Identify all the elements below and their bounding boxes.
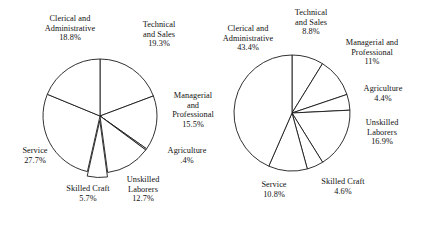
right-label-technical-line1: Technical <box>282 8 340 18</box>
left-label-managerial-line1: Managerial <box>159 91 227 101</box>
left-label-service-pct: 27.7% <box>11 156 59 166</box>
left-label-technical-line2: and Sales <box>126 30 192 40</box>
left-label-skilled-line1: Skilled Craft <box>60 184 116 194</box>
left-label-skilled-craft: Skilled Craft 5.7% <box>60 184 116 203</box>
right-label-clerical-pct: 43.4% <box>208 43 288 53</box>
left-pie-group <box>43 59 157 177</box>
left-label-managerial-pct: 15.5% <box>159 120 227 130</box>
right-label-managerial-line1: Managerial and <box>330 38 414 48</box>
left-label-clerical-and-administrative: Clerical and Administrative 18.8% <box>22 14 118 43</box>
right-label-agriculture-pct: 4.4% <box>352 94 414 104</box>
left-label-managerial-line2: and <box>159 101 227 111</box>
right-pie-group <box>234 55 350 171</box>
left-label-agriculture-pct: .4% <box>157 156 217 166</box>
right-label-service-line1: Service <box>250 180 298 190</box>
left-label-agriculture: Agriculture .4% <box>157 146 217 165</box>
right-label-skilled-line1: Skilled Craft <box>313 177 373 187</box>
right-label-clerical-line2: Administrative <box>208 34 288 44</box>
left-label-service-line1: Service <box>11 146 59 156</box>
right-label-clerical-line1: Clerical and <box>208 24 288 34</box>
left-label-unskilled-laborers: Unskilled Laborers 12.7% <box>116 175 170 204</box>
right-label-service: Service 10.8% <box>250 180 298 199</box>
left-label-unskilled-line1: Unskilled <box>116 175 170 185</box>
right-label-agriculture-line1: Agriculture <box>352 84 414 94</box>
right-label-managerial-pct: 11% <box>330 57 414 67</box>
left-label-skilled-pct: 5.7% <box>60 194 116 204</box>
right-label-unskilled-line2: Laborers <box>354 128 410 138</box>
right-label-agriculture: Agriculture 4.4% <box>352 84 414 103</box>
left-label-technical-pct: 19.3% <box>126 39 192 49</box>
left-label-unskilled-pct: 12.7% <box>116 194 170 204</box>
pie-chart-figure: Clerical and Administrative 18.8% Techni… <box>0 0 422 227</box>
right-label-service-pct: 10.8% <box>250 190 298 200</box>
left-label-clerical-line2: Administrative <box>22 24 118 34</box>
right-label-technical-line2: and Sales <box>282 18 340 28</box>
left-label-agriculture-line1: Agriculture <box>157 146 217 156</box>
right-label-managerial-and-professional: Managerial and Professional 11% <box>330 38 414 67</box>
left-label-clerical-pct: 18.8% <box>22 33 118 43</box>
right-label-unskilled-line1: Unskilled <box>354 118 410 128</box>
left-label-managerial-and-professional: Managerial and Professional 15.5% <box>159 91 227 129</box>
right-label-unskilled-laborers: Unskilled Laborers 16.9% <box>354 118 410 147</box>
right-label-technical-pct: 8.8% <box>282 27 340 37</box>
left-label-unskilled-line2: Laborers <box>116 185 170 195</box>
left-label-technical-line1: Technical <box>126 20 192 30</box>
left-label-clerical-line1: Clerical and <box>22 14 118 24</box>
right-label-clerical-and-administrative: Clerical and Administrative 43.4% <box>208 24 288 53</box>
left-label-technical-and-sales: Technical and Sales 19.3% <box>126 20 192 49</box>
right-label-skilled-craft: Skilled Craft 4.6% <box>313 177 373 196</box>
right-label-technical-and-sales: Technical and Sales 8.8% <box>282 8 340 37</box>
right-label-unskilled-pct: 16.9% <box>354 137 410 147</box>
right-label-managerial-line2: Professional <box>330 48 414 58</box>
left-label-service: Service 27.7% <box>11 146 59 165</box>
right-label-skilled-pct: 4.6% <box>313 187 373 197</box>
left-label-managerial-line3: Professional <box>159 110 227 120</box>
